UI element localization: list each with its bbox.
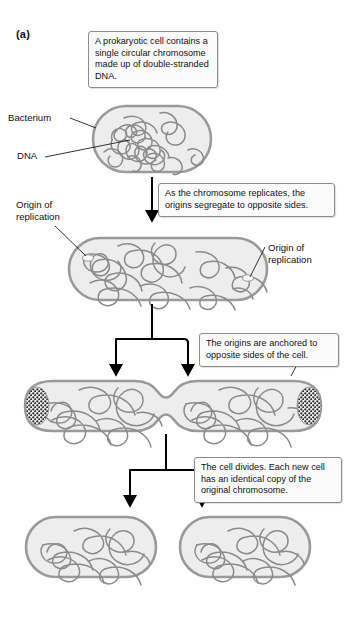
callout-chromosome-replicates: As the chromosome replicates, the origin…: [158, 183, 335, 217]
leader-bacterium: [70, 118, 96, 128]
callout-origins-anchored: The origins are anchored to opposite sid…: [199, 333, 339, 367]
label-bacterium: Bacterium: [8, 112, 51, 124]
callout-prokaryotic-cell: A prokaryotic cell contains a single cir…: [88, 31, 218, 88]
stage-4-daughter-cell-left: [26, 517, 156, 585]
flow-arrow-2-split: [116, 304, 188, 370]
leader-origin-left: [55, 226, 86, 256]
stage-2-replicated: [69, 238, 267, 310]
flow-arrow-3-split: [130, 434, 202, 501]
label-origin-of-replication-left: Origin of replication: [16, 199, 60, 224]
diagram-artwork: [0, 0, 346, 628]
figure-canvas: (a): [0, 0, 346, 628]
label-dna: DNA: [17, 150, 37, 162]
origin-of-replication-left: [83, 255, 94, 261]
origin-of-replication-right: [243, 275, 254, 281]
stage-4-daughter-cell-right: [180, 517, 310, 585]
stage-3-dividing: [20, 381, 328, 447]
callout-cell-divides: The cell divides. Each new cell has an i…: [194, 457, 342, 503]
stage-1-bacterium: [93, 106, 211, 174]
label-origin-of-replication-right: Origin of replication: [268, 242, 312, 267]
